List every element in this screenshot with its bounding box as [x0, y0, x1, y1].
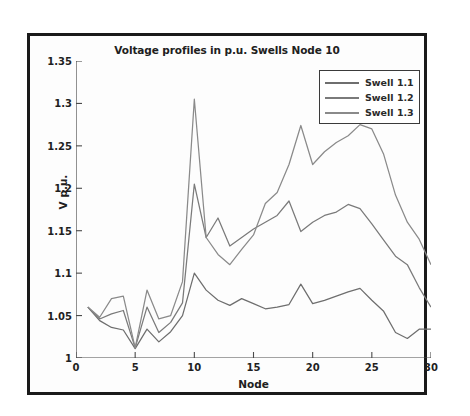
x-axis-tick-label: 5 — [132, 362, 139, 373]
y-axis-tick-label: 1.05 — [47, 310, 72, 321]
x-axis-label: Node — [76, 378, 431, 390]
legend-item: Swell 1.1 — [325, 75, 414, 90]
x-axis-tick-label: 10 — [187, 362, 201, 373]
x-axis-tick-label: 20 — [306, 362, 320, 373]
legend-item: Swell 1.3 — [325, 105, 414, 120]
legend-line-swatch — [325, 112, 359, 114]
x-axis-tick-label: 0 — [73, 362, 80, 373]
chart-title: Voltage profiles in p.u. Swells Node 10 — [30, 44, 424, 56]
y-axis-tick-label: 1.35 — [47, 56, 72, 67]
legend-item-label: Swell 1.2 — [365, 92, 414, 103]
x-axis-tick-labels: 051015202530 — [76, 362, 431, 378]
figure-frame: Voltage profiles in p.u. Swells Node 10 … — [27, 33, 427, 395]
y-axis-tick-label: 1.1 — [54, 268, 72, 279]
series-line-3 — [88, 99, 431, 348]
x-axis-tick-label: 30 — [424, 362, 438, 373]
legend: Swell 1.1Swell 1.2Swell 1.3 — [319, 70, 420, 124]
x-axis-tick-label: 25 — [365, 362, 379, 373]
y-axis-tick-label: 1 — [65, 353, 72, 364]
series-line-2 — [88, 184, 431, 348]
legend-item-label: Swell 1.3 — [365, 107, 414, 118]
y-axis-label: V p.u. — [57, 147, 69, 237]
legend-line-swatch — [325, 82, 359, 84]
y-axis-tick-label: 1.3 — [54, 98, 72, 109]
legend-item: Swell 1.2 — [325, 90, 414, 105]
legend-line-swatch — [325, 97, 359, 99]
series-line-1 — [88, 273, 431, 349]
legend-item-label: Swell 1.1 — [365, 77, 414, 88]
x-axis-tick-label: 15 — [247, 362, 261, 373]
